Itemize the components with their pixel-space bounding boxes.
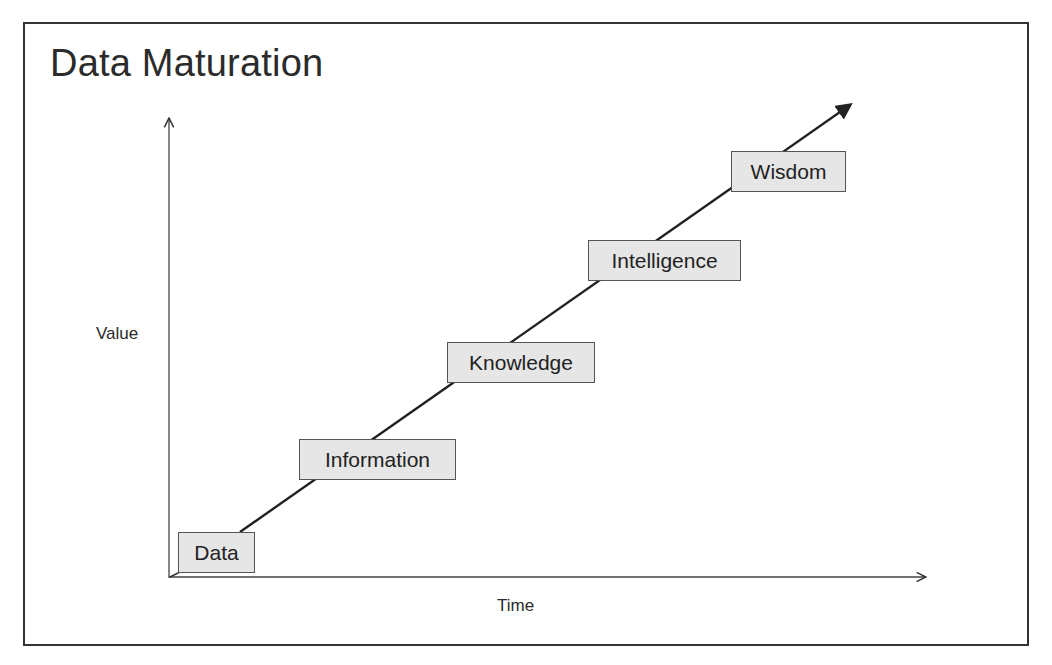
stage-wisdom-box: Wisdom (731, 151, 846, 192)
stage-data-box: Data (178, 532, 255, 573)
stage-knowledge-box: Knowledge (447, 342, 595, 383)
axes-and-trend (0, 0, 1052, 665)
x-axis-label: Time (497, 596, 534, 616)
y-axis-label: Value (96, 324, 138, 344)
stage-information-box: Information (299, 439, 456, 480)
stage-intelligence-box: Intelligence (588, 240, 741, 281)
